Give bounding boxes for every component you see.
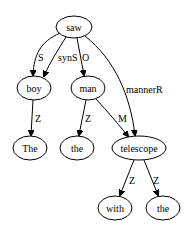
node-label: telescope	[120, 143, 158, 154]
edge-label-S: S	[38, 52, 44, 63]
node-boy[interactable]: boy	[17, 76, 51, 100]
node-label: the	[71, 143, 84, 154]
node-the-1[interactable]: the	[60, 136, 94, 160]
edge-label-O: O	[82, 52, 89, 63]
node-The[interactable]: The	[13, 136, 47, 160]
edge-label-Z: Z	[129, 175, 135, 186]
node-telescope[interactable]: telescope	[112, 136, 166, 160]
node-with[interactable]: with	[98, 196, 132, 220]
edge-label-mannerR: mannerR	[126, 84, 163, 95]
edge-saw-boy-synS: synS	[44, 37, 77, 76]
node-label: with	[106, 203, 124, 214]
edge-saw-man-O: O	[77, 38, 89, 75]
edge-label-Z: Z	[35, 113, 41, 124]
edge-man-the-Z: Z	[79, 100, 91, 135]
edge-man-telescope-M: M	[96, 99, 128, 136]
node-label: the	[157, 203, 170, 214]
edge-label-Z: Z	[153, 175, 159, 186]
node-man[interactable]: man	[71, 76, 105, 100]
dependency-graph: S synS O mannerR Z Z M	[0, 0, 193, 236]
node-label: saw	[66, 22, 82, 33]
edge-label-synS: synS	[58, 52, 77, 63]
edges: S synS O mannerR Z Z M	[31, 33, 163, 195]
node-label: boy	[27, 83, 42, 94]
node-the-2[interactable]: the	[146, 196, 180, 220]
node-label: The	[22, 143, 38, 154]
edge-boy-The-Z: Z	[31, 100, 41, 135]
edge-line	[31, 100, 33, 135]
node-label: man	[79, 83, 96, 94]
node-saw[interactable]: saw	[56, 16, 92, 38]
edge-label-Z: Z	[85, 113, 91, 124]
edge-label-M: M	[118, 113, 127, 124]
edge-telescope-with-Z: Z	[120, 160, 135, 195]
edge-telescope-the-Z: Z	[144, 160, 159, 195]
